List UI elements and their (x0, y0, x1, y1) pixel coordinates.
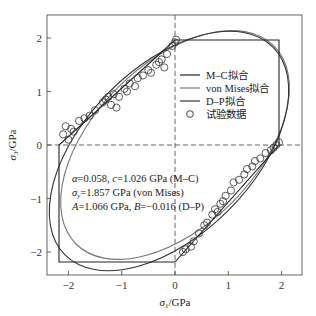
legend-label-data: 试验数据 (206, 108, 247, 120)
y-tick-label: 0 (37, 139, 43, 151)
annotation-dp: A=1.066 GPa, B=−0.016 (D–P) (71, 201, 205, 213)
drucker-prager-curve (6, 0, 316, 314)
chart-canvas: −2 −1 0 1 2 2 1 0 −1 −2 σ1/GPa σ3/GPa M–… (0, 0, 316, 316)
x-tick-label: 1 (226, 279, 232, 291)
y-tick-label: −2 (30, 246, 42, 258)
legend-label-dp: D–P拟合 (206, 95, 246, 107)
y-tick-label: −1 (30, 193, 42, 205)
data-point (227, 187, 234, 194)
legend: M–C拟合 von Mises拟合 D–P拟合 试验数据 (180, 69, 270, 120)
x-tick-label: −2 (63, 279, 75, 291)
legend-label-mc: M–C拟合 (206, 69, 249, 81)
data-point (163, 50, 170, 57)
data-point (161, 64, 168, 71)
x-tick-label: 2 (279, 279, 285, 291)
legend-label-von-mises: von Mises拟合 (206, 82, 270, 94)
test-data-points (60, 36, 283, 256)
fit-parameters-annotation: α=0.058, c=1.026 GPa (M–C) σy=1.857 GPa … (71, 173, 205, 213)
annotation-von-mises: σy=1.857 GPa (von Mises) (72, 187, 184, 200)
x-tick-label: −1 (116, 279, 128, 291)
y-ticks (47, 38, 51, 252)
legend-marker-circle-icon (187, 111, 194, 118)
y-tick-label: 1 (37, 86, 43, 98)
x-ticks (68, 271, 281, 275)
data-point (60, 131, 67, 138)
x-axis-label: σ1/GPa (160, 296, 191, 310)
x-tick-label: 0 (172, 279, 178, 291)
annotation-mc: α=0.058, c=1.026 GPa (M–C) (72, 173, 199, 185)
y-tick-label: 2 (37, 32, 43, 44)
y-axis-label: σ3/GPa (6, 129, 20, 160)
